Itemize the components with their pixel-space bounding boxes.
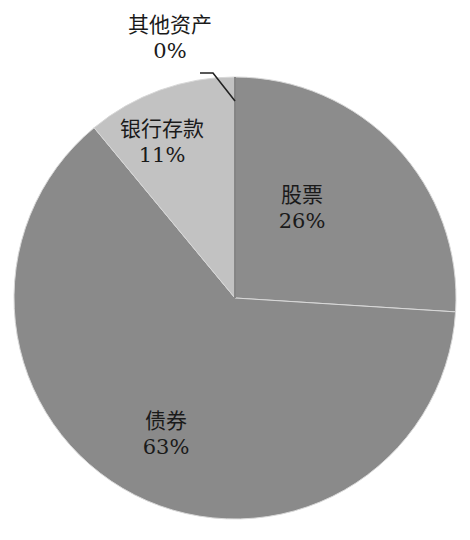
label-bonds: 债券 63% <box>143 408 190 460</box>
pie-slices <box>14 77 456 519</box>
label-stocks: 股票 26% <box>279 182 326 234</box>
label-deposits-name: 银行存款 <box>120 116 204 142</box>
label-stocks-pct: 26% <box>279 208 326 234</box>
pie-chart <box>0 0 470 540</box>
label-stocks-name: 股票 <box>279 182 326 208</box>
pie-slice <box>235 77 456 312</box>
label-other: 其他资产 0% <box>128 12 212 64</box>
label-other-pct: 0% <box>128 38 212 64</box>
label-other-name: 其他资产 <box>128 12 212 38</box>
label-bonds-pct: 63% <box>143 434 190 460</box>
label-deposits-pct: 11% <box>120 142 204 168</box>
label-bonds-name: 债券 <box>143 408 190 434</box>
label-deposits: 银行存款 11% <box>120 116 204 168</box>
